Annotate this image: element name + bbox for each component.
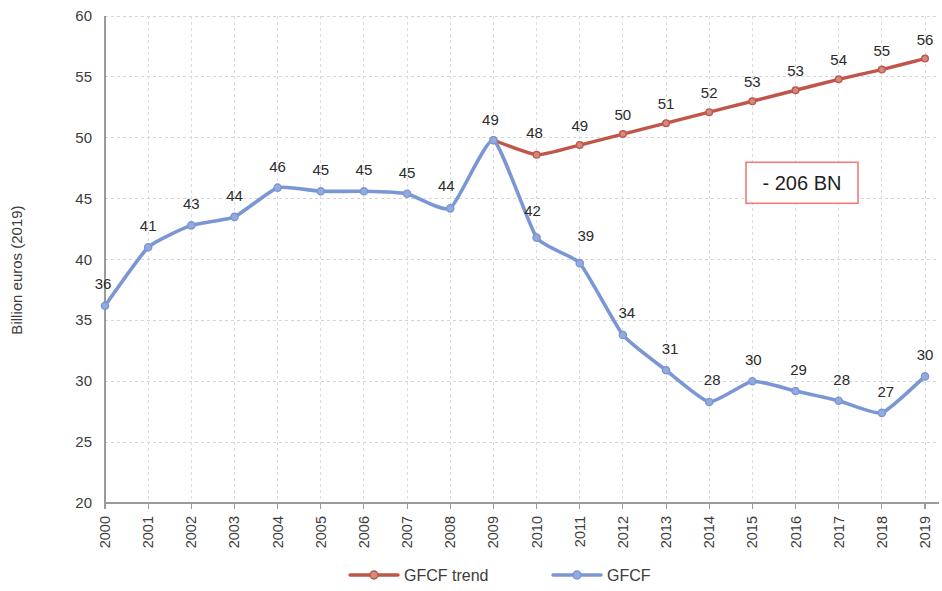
- data-point-label: 30: [745, 351, 762, 368]
- data-point-marker: [878, 409, 885, 416]
- data-point-label: 44: [438, 177, 455, 194]
- x-axis-tick-label: 2007: [399, 516, 415, 548]
- data-point-label: 44: [226, 187, 243, 204]
- data-point-marker: [576, 260, 583, 267]
- data-point-marker: [706, 398, 713, 405]
- gfcf-line-chart: 202530354045505560 200020012002200320042…: [0, 0, 942, 591]
- data-point-marker: [921, 373, 928, 380]
- data-point-marker: [835, 76, 842, 83]
- chart-canvas: 202530354045505560 200020012002200320042…: [0, 0, 942, 591]
- data-point-label: 43: [183, 195, 200, 212]
- x-axis-tick-label: 2018: [874, 516, 890, 548]
- data-point-marker: [231, 213, 238, 220]
- data-point-label: 50: [615, 106, 632, 123]
- data-point-marker: [663, 120, 670, 127]
- x-axis: [105, 503, 939, 509]
- data-point-marker: [662, 367, 669, 374]
- annotation-callout: - 206 BN: [746, 162, 858, 203]
- x-axis-tick-label: 2014: [701, 516, 717, 548]
- data-point-label: 53: [787, 62, 804, 79]
- data-point-marker: [317, 188, 324, 195]
- data-point-marker: [792, 387, 799, 394]
- data-point-label: 41: [140, 217, 157, 234]
- data-point-label: 45: [399, 164, 416, 181]
- x-axis-tick-label: 2016: [788, 516, 804, 548]
- data-point-label: 39: [577, 227, 594, 244]
- data-point-label: 49: [571, 117, 588, 134]
- data-point-label: 52: [701, 84, 718, 101]
- y-axis-tick-label: 60: [75, 7, 92, 24]
- y-axis-title: Billion euros (2019): [8, 205, 25, 334]
- data-point-label: 29: [790, 361, 807, 378]
- x-axis-tick-label: 2012: [615, 516, 631, 548]
- x-axis-tick-label: 2006: [356, 516, 372, 548]
- data-point-label: 36: [95, 275, 112, 292]
- x-axis-tick-label: 2004: [270, 516, 286, 548]
- data-point-label: 55: [873, 42, 890, 59]
- x-axis-tick-label: 2001: [140, 516, 156, 548]
- annotation-label: - 206 BN: [763, 172, 842, 194]
- legend-label: GFCF trend: [404, 567, 488, 584]
- data-point-marker: [274, 184, 281, 191]
- x-axis-tick-label: 2011: [572, 516, 588, 547]
- data-point-label: 27: [877, 383, 894, 400]
- data-point-label: 31: [662, 340, 679, 357]
- x-axis-tick-labels: 2000200120022003200420052006200720082009…: [97, 516, 933, 548]
- data-point-marker: [620, 131, 627, 138]
- data-point-label: 34: [619, 304, 636, 321]
- y-axis-tick-label: 25: [75, 433, 92, 450]
- x-axis-tick-label: 2019: [917, 516, 933, 548]
- y-axis-tick-label: 50: [75, 129, 92, 146]
- x-axis-tick-label: 2017: [831, 516, 847, 548]
- data-point-label: 54: [830, 51, 847, 68]
- x-axis-tick-label: 2013: [658, 516, 674, 548]
- y-axis-tick-label: 35: [75, 311, 92, 328]
- x-axis-tick-label: 2002: [183, 516, 199, 548]
- x-axis-tick-label: 2010: [529, 516, 545, 548]
- y-axis-tick-label: 45: [75, 190, 92, 207]
- data-point-marker: [576, 142, 583, 149]
- y-axis-tick-label: 40: [75, 251, 92, 268]
- data-point-marker: [404, 190, 411, 197]
- data-point-marker: [792, 87, 799, 94]
- data-point-label: 46: [269, 158, 286, 175]
- data-point-marker: [749, 378, 756, 385]
- data-point-label: 49: [482, 111, 499, 128]
- data-point-marker: [533, 234, 540, 241]
- data-point-label: 56: [917, 31, 934, 48]
- y-axis-tick-label: 20: [75, 494, 92, 511]
- data-point-marker: [490, 137, 497, 144]
- data-point-label: 53: [744, 73, 761, 90]
- data-point-marker: [619, 331, 626, 338]
- x-axis-tick-label: 2003: [226, 516, 242, 548]
- data-point-marker: [101, 302, 108, 309]
- legend-label: GFCF: [607, 567, 651, 584]
- chart-legend: GFCF trendGFCF: [350, 567, 651, 584]
- data-point-label: 28: [704, 371, 721, 388]
- data-point-marker: [533, 151, 540, 158]
- data-point-marker: [879, 66, 886, 73]
- data-point-label: 42: [524, 202, 541, 219]
- data-point-label: 28: [833, 371, 850, 388]
- data-point-marker: [360, 188, 367, 195]
- data-point-marker: [922, 55, 929, 62]
- y-axis-tick-label: 55: [75, 68, 92, 85]
- data-point-marker: [188, 222, 195, 229]
- y-axis-tick-labels: 202530354045505560: [75, 7, 92, 511]
- data-point-marker: [749, 98, 756, 105]
- data-point-marker: [447, 205, 454, 212]
- data-point-label: 48: [526, 124, 543, 141]
- data-point-label: 45: [356, 161, 373, 178]
- grid-lines: [105, 16, 939, 503]
- data-point-marker: [835, 397, 842, 404]
- y-axis-tick-label: 30: [75, 372, 92, 389]
- data-point-marker: [145, 244, 152, 251]
- data-point-marker: [706, 109, 713, 116]
- legend-swatch-marker: [370, 571, 378, 579]
- x-axis-tick-label: 2009: [485, 516, 501, 548]
- x-axis-tick-label: 2005: [313, 516, 329, 548]
- data-point-label: 30: [917, 346, 934, 363]
- legend-swatch-marker: [573, 571, 581, 579]
- x-axis-tick-label: 2000: [97, 516, 113, 548]
- data-point-label: 51: [658, 95, 675, 112]
